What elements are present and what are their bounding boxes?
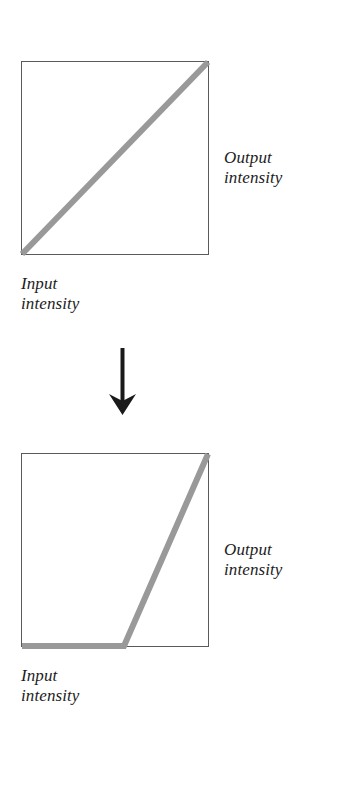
input-axis-label-threshold: Input intensity bbox=[21, 666, 80, 706]
downward-arrow-icon bbox=[100, 345, 160, 420]
downward-arrow bbox=[100, 345, 160, 420]
output-label-line-1: Output bbox=[224, 540, 283, 560]
output-axis-label-threshold: Output intensity bbox=[224, 540, 283, 580]
output-label-line-1: Output bbox=[224, 148, 283, 168]
plot-frame-identity bbox=[21, 61, 209, 255]
plot-frame-threshold bbox=[21, 453, 209, 647]
panel-identity: Output intensity Input intensity bbox=[0, 0, 345, 330]
output-label-line-2: intensity bbox=[224, 168, 283, 188]
input-label-line-2: intensity bbox=[21, 686, 80, 706]
panel-threshold: Output intensity Input intensity bbox=[0, 440, 345, 740]
input-axis-label-identity: Input intensity bbox=[21, 274, 80, 314]
output-axis-label-identity: Output intensity bbox=[224, 148, 283, 188]
input-label-line-2: intensity bbox=[21, 294, 80, 314]
transfer-function-figure: Output intensity Input intensity Output … bbox=[0, 0, 345, 787]
input-label-line-1: Input bbox=[21, 274, 80, 294]
output-label-line-2: intensity bbox=[224, 560, 283, 580]
input-label-line-1: Input bbox=[21, 666, 80, 686]
